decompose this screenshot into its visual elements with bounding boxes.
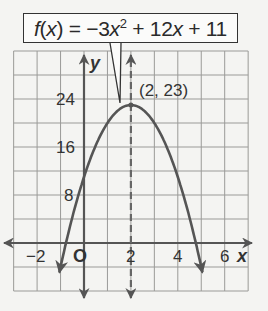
x-tick-label: 2 — [126, 247, 135, 266]
function-label: f(x) = −3x2 + 12x + 11 — [24, 16, 237, 41]
parabola-graph: −2O24681624xy (2, 23) — [0, 0, 268, 311]
vertex-point — [128, 103, 133, 108]
vertex-label: (2, 23) — [139, 81, 188, 100]
label-callout-pointer — [110, 43, 121, 103]
x-tick-label: 6 — [220, 247, 229, 266]
x-tick-label: O — [73, 246, 87, 266]
x-tick-label: 4 — [173, 247, 182, 266]
y-tick-label: 8 — [64, 186, 73, 205]
label-x: x — [46, 17, 56, 40]
label-x: x — [173, 17, 183, 40]
label-exponent: 2 — [120, 16, 127, 31]
label-eq: ) = −3 — [57, 17, 110, 40]
x-axis-label: x — [236, 246, 248, 266]
callout-pointer — [110, 43, 121, 103]
y-tick-label: 16 — [56, 138, 75, 157]
x-tick-label: −2 — [26, 247, 45, 266]
label-x: x — [110, 17, 120, 40]
function-label-box: f(x) = −3x2 + 12x + 11 — [23, 13, 238, 43]
y-axis-label: y — [89, 53, 101, 73]
label-tail: + 11 — [183, 17, 227, 40]
label-mid: + 12 — [127, 17, 173, 40]
y-tick-label: 24 — [56, 90, 75, 109]
tick-labels: −2O24681624xy — [26, 53, 248, 266]
